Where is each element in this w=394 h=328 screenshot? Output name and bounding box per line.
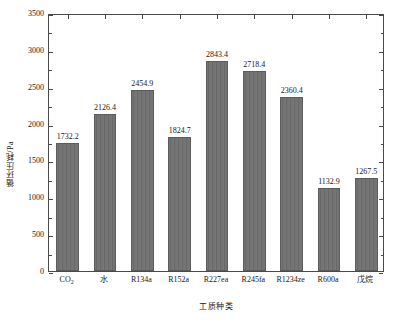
bar[interactable] — [94, 114, 116, 271]
x-axis-tick-label: 水 — [100, 276, 108, 284]
bar-slot: 2126.4 — [94, 15, 116, 271]
y-axis-tick-label: 3500 — [28, 10, 44, 18]
y-axis-title-text: 循环压耗/Pa — [5, 141, 16, 187]
bar-value-label: 1732.2 — [57, 133, 79, 141]
bar[interactable] — [355, 178, 377, 271]
x-axis-tick-label: R245fa — [242, 276, 266, 284]
bar[interactable] — [56, 143, 78, 271]
bar-slot: 1267.5 — [355, 15, 377, 271]
x-axis-tick-label: CO2 — [60, 276, 74, 284]
bar-value-label: 2843.4 — [206, 51, 228, 59]
y-axis-tick-label: 500 — [32, 231, 44, 239]
bar-series: 1732.22126.42454.91824.72843.42718.42360… — [49, 15, 383, 271]
bar-value-label: 1132.9 — [318, 178, 340, 186]
y-axis-tick-label: 0 — [40, 268, 44, 276]
x-axis-title: 工质种类 — [48, 300, 384, 311]
y-axis-tick-mark — [49, 273, 53, 274]
plot-inner: 1732.22126.42454.91824.72843.42718.42360… — [49, 15, 383, 271]
bar-slot: 1132.9 — [318, 15, 340, 271]
bar-value-label: 2360.4 — [281, 87, 303, 95]
bar-slot: 1732.2 — [56, 15, 78, 271]
x-axis-tick-label: 戊烷 — [357, 276, 373, 284]
bar-slot: 2718.4 — [243, 15, 265, 271]
bar-value-label: 2126.4 — [94, 104, 116, 112]
x-axis-tick-label: R134a — [131, 276, 152, 284]
y-axis-tick-mark — [379, 273, 383, 274]
x-axis-tick-label: R227ea — [204, 276, 228, 284]
plot-area: 1732.22126.42454.91824.72843.42718.42360… — [48, 14, 384, 272]
x-axis-tick-labels: CO2水R134aR152aR227eaR245faR1234zeR600a戊烷 — [48, 276, 384, 292]
x-axis-tick-label: R1234ze — [276, 276, 304, 284]
x-axis-tick-label: R152a — [168, 276, 189, 284]
y-axis-tick-label: 1000 — [28, 194, 44, 202]
bar-slot: 2360.4 — [280, 15, 302, 271]
bar-value-label: 2454.9 — [131, 80, 153, 88]
y-axis-tick-label: 2500 — [28, 84, 44, 92]
y-axis-tick-label: 2000 — [28, 121, 44, 129]
bar[interactable] — [168, 137, 190, 272]
x-axis-tick-label: R600a — [318, 276, 339, 284]
y-axis-tick-label: 1500 — [28, 157, 44, 165]
bar[interactable] — [243, 71, 265, 271]
bar-slot: 2843.4 — [206, 15, 228, 271]
bar-slot: 2454.9 — [131, 15, 153, 271]
y-axis-tick-label: 3000 — [28, 47, 44, 55]
y-axis-tick-labels: 0500100015002000250030003500 — [16, 0, 46, 328]
bar[interactable] — [131, 90, 153, 271]
bar-value-label: 1267.5 — [355, 168, 377, 176]
bar-slot: 1824.7 — [168, 15, 190, 271]
bar-value-label: 1824.7 — [169, 127, 191, 135]
bar[interactable] — [318, 188, 340, 272]
bar[interactable] — [206, 61, 228, 271]
bar-value-label: 2718.4 — [243, 61, 265, 69]
bar-chart-figure: 循环压耗/Pa 0500100015002000250030003500 173… — [0, 0, 394, 328]
bar[interactable] — [280, 97, 302, 271]
